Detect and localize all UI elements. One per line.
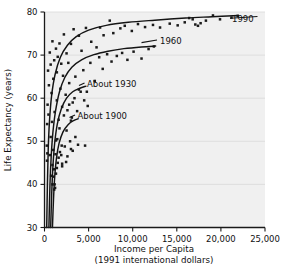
data-point [101, 68, 104, 71]
data-point [152, 24, 155, 27]
y-tick-label-80: 80 [27, 7, 38, 17]
data-point [46, 123, 49, 126]
data-point [66, 109, 69, 112]
data-point [197, 25, 200, 28]
data-point [112, 32, 115, 35]
data-point [109, 19, 112, 22]
data-point [56, 138, 59, 141]
data-point [132, 50, 135, 53]
data-point [116, 55, 119, 58]
data-point [66, 155, 69, 158]
y-tick-label-30: 30 [27, 223, 38, 233]
data-point [90, 40, 93, 43]
y-tick-label-50: 50 [27, 136, 38, 146]
data-point [137, 23, 140, 26]
data-point [131, 30, 134, 33]
x-tick-label-0: 0 [42, 234, 47, 244]
data-point [58, 42, 61, 45]
chart-canvas: 05,00010,00015,00020,00025,000 304050607… [0, 0, 281, 270]
data-point [194, 23, 197, 26]
x-tick-label-5000: 5,000 [76, 234, 100, 244]
data-point [55, 47, 58, 50]
data-point [67, 62, 70, 65]
data-point [126, 59, 129, 62]
data-point [98, 56, 101, 59]
data-point [61, 165, 64, 168]
data-point [86, 90, 89, 93]
data-point [58, 127, 61, 129]
data-point [68, 82, 71, 85]
data-point [56, 56, 59, 59]
data-point [63, 114, 66, 117]
series-label-1990: 1990 [232, 14, 254, 24]
data-point [144, 26, 147, 29]
data-point [159, 26, 162, 29]
data-point [46, 103, 49, 106]
x-axis-title-subline: (1991 international dollars) [95, 255, 214, 265]
x-axis-title: Income per Capita [114, 244, 194, 254]
data-point [86, 105, 89, 108]
data-point [219, 18, 222, 21]
data-point [65, 161, 68, 164]
data-point [183, 21, 186, 24]
data-point [64, 145, 67, 148]
y-axis-title: Life Expectancy (years) [3, 69, 13, 171]
x-tick-label-15000: 15,000 [162, 234, 192, 244]
series-label-about-1900: About 1900 [78, 111, 127, 121]
data-point [77, 144, 80, 147]
data-point [74, 136, 77, 139]
data-point [85, 27, 88, 30]
data-point [119, 27, 122, 30]
data-point [205, 19, 208, 22]
data-point [83, 99, 86, 102]
data-point [176, 24, 179, 27]
series-label-1960: 1960 [160, 36, 182, 46]
data-point [74, 75, 77, 78]
data-point [65, 129, 68, 132]
data-point [102, 34, 105, 37]
data-point [199, 22, 202, 25]
data-point [191, 18, 194, 21]
data-point [68, 103, 71, 106]
data-point [147, 48, 150, 51]
data-point [49, 63, 52, 66]
data-point [80, 50, 83, 53]
data-point [53, 59, 56, 62]
data-point [47, 69, 50, 72]
life-expectancy-income-chart: 05,00010,00015,00020,00025,000 304050607… [0, 0, 281, 270]
data-point [70, 148, 73, 151]
data-point [71, 101, 74, 104]
data-point [60, 62, 63, 65]
data-point [140, 57, 143, 60]
data-point [49, 136, 52, 139]
data-point [48, 84, 51, 87]
data-point [51, 121, 54, 124]
data-point [84, 144, 87, 147]
y-tick-label-70: 70 [27, 50, 38, 60]
data-point [89, 62, 92, 65]
data-point [72, 28, 75, 31]
data-point [59, 151, 62, 154]
data-point [110, 60, 113, 63]
data-point [60, 154, 63, 157]
data-point [79, 90, 82, 93]
data-point [57, 156, 60, 159]
data-point [73, 97, 76, 100]
data-point [61, 162, 64, 165]
data-point [56, 162, 59, 165]
data-point [106, 53, 109, 56]
y-tick-label-40: 40 [27, 179, 38, 189]
x-tick-label-10000: 10,000 [118, 234, 148, 244]
data-point [95, 46, 98, 49]
x-tick-label-20000: 20,000 [206, 234, 236, 244]
data-point [63, 33, 66, 36]
y-axis-tick-labels: 304050607080 [27, 7, 38, 233]
data-point [168, 22, 171, 25]
data-point [65, 52, 68, 55]
data-point [64, 94, 67, 97]
data-point [82, 69, 85, 72]
data-point [69, 140, 72, 143]
data-point [124, 25, 127, 28]
x-tick-label-25000: 25,000 [250, 234, 280, 244]
data-point [51, 40, 54, 43]
